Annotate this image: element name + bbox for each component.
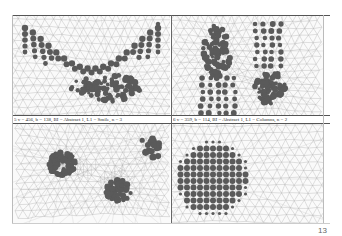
dot [223, 185, 229, 191]
mesh-edge [308, 34, 317, 35]
mesh-edge [40, 210, 44, 217]
mesh-edge [166, 211, 170, 217]
mesh-edge [307, 56, 312, 64]
mesh-edge [239, 38, 243, 45]
mesh-edge [20, 78, 24, 85]
dot [254, 80, 259, 85]
mesh-edge [282, 132, 285, 139]
mesh-edge [272, 147, 277, 155]
mesh-edge [161, 183, 165, 190]
dot [115, 193, 120, 198]
mesh-edge [128, 171, 132, 176]
mesh-edge [147, 93, 151, 99]
mesh-edge [49, 130, 53, 139]
dot [213, 47, 220, 54]
mesh-edge [181, 75, 189, 77]
mesh-edge [259, 163, 264, 170]
mesh-edge [165, 79, 169, 85]
mesh-edge [172, 134, 175, 141]
dot [211, 140, 214, 143]
dot [122, 96, 128, 102]
mesh-edge [15, 124, 20, 128]
mesh-edge [53, 124, 57, 131]
mesh-edge [250, 185, 254, 192]
mesh-edge [62, 187, 70, 188]
mesh-edge [120, 66, 123, 72]
dot [237, 199, 240, 202]
mesh-edge [50, 85, 60, 86]
mesh-edge [286, 208, 290, 215]
mesh-edge [136, 194, 139, 200]
mesh-edge [283, 36, 287, 44]
mesh-edge [160, 57, 165, 64]
mesh-edge [54, 19, 62, 20]
mesh-edge [73, 105, 81, 106]
mesh-edge [172, 34, 176, 42]
mesh-edge [135, 146, 138, 152]
mesh-edge [254, 178, 259, 185]
mesh-edge [142, 99, 146, 106]
mesh-edge [285, 178, 290, 185]
dot [55, 55, 61, 61]
mesh-edge [146, 85, 156, 86]
mesh-edge [312, 125, 317, 132]
mesh-edge [76, 36, 80, 42]
mesh-edge [137, 20, 146, 21]
mesh-edge [132, 21, 137, 28]
mesh-edge [15, 56, 19, 63]
mesh-edge [33, 85, 37, 93]
mesh-edge [152, 99, 155, 107]
mesh-edge [172, 104, 180, 105]
mesh-edge [91, 146, 95, 152]
mesh-edge [36, 124, 40, 130]
dot [102, 96, 109, 103]
mesh-edge [19, 124, 23, 129]
dot [263, 36, 268, 41]
mesh-edge [36, 196, 41, 203]
dot [72, 66, 78, 72]
dot [122, 55, 128, 61]
mesh-edge [137, 85, 146, 86]
dot [201, 90, 206, 95]
mesh-edge [243, 57, 247, 64]
mesh-edge [65, 92, 69, 100]
dot [262, 56, 267, 61]
mesh-edge [172, 171, 175, 177]
mesh-edge [137, 215, 145, 217]
mesh-edge [37, 137, 41, 145]
mesh-edge [119, 104, 122, 110]
mesh-edge [92, 43, 97, 52]
dot [261, 43, 265, 47]
mesh-edge [23, 204, 29, 210]
mesh-edge [82, 208, 86, 215]
mesh-edge [16, 197, 24, 198]
dot [216, 89, 221, 94]
mesh-edge [16, 164, 21, 170]
dot [107, 191, 113, 197]
dot [155, 43, 160, 48]
dot [117, 73, 122, 78]
figure-panel-clusters [13, 124, 170, 223]
mesh-edge [142, 65, 147, 72]
mesh-edge [152, 106, 156, 113]
mesh-edge [152, 195, 157, 201]
mesh-edge [33, 143, 39, 151]
mesh-edge [246, 199, 250, 206]
mesh-edge [128, 37, 133, 44]
mesh-edge [18, 16, 22, 19]
mesh-edge [107, 124, 115, 125]
dot [230, 172, 236, 178]
mesh-edge [45, 34, 54, 36]
mesh-edge [13, 78, 15, 86]
mesh-edge [164, 169, 168, 176]
mesh-edge [32, 19, 36, 25]
mesh-edge [304, 156, 308, 162]
dot [184, 198, 190, 204]
mesh-edge [163, 20, 166, 28]
mesh-edge [166, 28, 170, 35]
mesh-edge [125, 20, 129, 28]
mesh-edge [252, 124, 255, 125]
mesh-edge [77, 181, 80, 187]
dot [236, 159, 242, 165]
mesh-edge [254, 185, 259, 192]
